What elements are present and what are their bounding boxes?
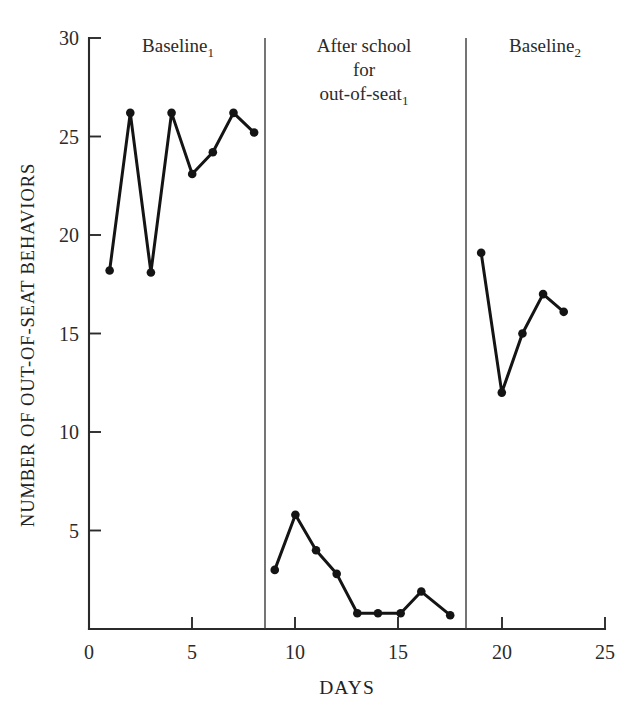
phase-2-label-subscript: 1 xyxy=(402,93,409,108)
phase-2-label-line-2: for xyxy=(353,59,376,80)
x-axis-title: DAYS xyxy=(319,677,375,698)
data-point xyxy=(396,609,405,618)
phase-label-baseline-2: Baseline2 xyxy=(509,35,581,60)
data-point xyxy=(229,109,238,118)
y-tick-label-30: 30 xyxy=(59,27,79,49)
data-point xyxy=(188,170,197,179)
y-tick-label-10: 10 xyxy=(59,421,79,443)
phase-label-intervention: After school for out-of-seat1 xyxy=(317,35,411,108)
figure-container: 30 25 20 15 10 5 0 5 10 15 20 25 DAYS NU… xyxy=(0,0,629,715)
data-point xyxy=(539,290,548,299)
y-tick-label-5: 5 xyxy=(69,520,79,542)
series-line-baseline-2 xyxy=(481,253,564,393)
data-point xyxy=(167,109,176,118)
data-point xyxy=(126,109,135,118)
data-point xyxy=(518,329,527,338)
y-tick-labels: 30 25 20 15 10 5 xyxy=(59,27,79,542)
svg-text:Baseline1: Baseline1 xyxy=(142,35,214,60)
y-ticks xyxy=(89,137,101,531)
data-point xyxy=(250,128,259,137)
data-point xyxy=(105,266,114,275)
data-point xyxy=(147,268,156,277)
phase-dividers xyxy=(265,38,466,629)
axes xyxy=(89,38,605,629)
data-series-layer xyxy=(105,109,568,620)
x-tick-label-0: 0 xyxy=(84,641,94,663)
data-point xyxy=(559,308,568,317)
x-tick-labels: 0 5 10 15 20 25 xyxy=(84,641,615,663)
phase-label-baseline-1: Baseline1 xyxy=(142,35,214,60)
data-point xyxy=(498,388,507,397)
data-point xyxy=(270,566,279,575)
x-tick-label-25: 25 xyxy=(595,641,615,663)
series-line-baseline-1 xyxy=(110,113,254,273)
series-baseline-1 xyxy=(105,109,258,277)
data-point xyxy=(374,609,383,618)
data-point xyxy=(312,546,321,555)
series-baseline-2 xyxy=(477,248,568,396)
data-point xyxy=(291,510,300,519)
y-axis-title: NUMBER OF OUT-OF-SEAT BEHAVIORS xyxy=(18,163,38,527)
phase-1-label-text: Baseline xyxy=(142,35,207,56)
y-tick-label-15: 15 xyxy=(59,323,79,345)
y-tick-label-25: 25 xyxy=(59,126,79,148)
data-point xyxy=(209,148,218,157)
phase-3-label-text: Baseline xyxy=(509,35,574,56)
x-ticks xyxy=(89,613,502,629)
data-point xyxy=(332,570,341,579)
phase-1-label-subscript: 1 xyxy=(207,45,214,60)
series-after-school-for-out-of-seat-1 xyxy=(270,510,454,619)
y-tick-label-20: 20 xyxy=(59,224,79,246)
x-tick-label-5: 5 xyxy=(187,641,197,663)
phase-2-label-line-1: After school xyxy=(317,35,411,56)
x-tick-label-10: 10 xyxy=(285,641,305,663)
svg-text:Baseline2: Baseline2 xyxy=(509,35,581,60)
data-point xyxy=(446,611,455,620)
series-line-after-school-for-out-of-seat-1 xyxy=(275,515,450,615)
phase-3-label-subscript: 2 xyxy=(574,45,581,60)
data-point xyxy=(477,248,486,257)
x-tick-label-20: 20 xyxy=(492,641,512,663)
data-point xyxy=(353,609,362,618)
x-tick-label-15: 15 xyxy=(388,641,408,663)
phase-2-label-line-3: out-of-seat xyxy=(320,83,403,104)
line-chart: 30 25 20 15 10 5 0 5 10 15 20 25 DAYS NU… xyxy=(0,0,629,715)
data-point xyxy=(417,587,426,596)
svg-text:out-of-seat1: out-of-seat1 xyxy=(320,83,409,108)
